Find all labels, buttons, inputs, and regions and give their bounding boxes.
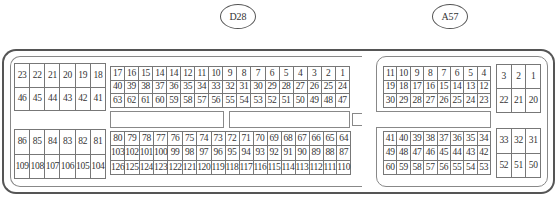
pin: 2 <box>511 65 526 89</box>
pin: 75 <box>182 132 196 146</box>
pin: 10 <box>209 67 223 81</box>
pin: 91 <box>281 146 295 160</box>
pin: 101 <box>139 146 153 160</box>
pin: 66 <box>309 132 323 146</box>
connector-label-d28: D28 <box>220 4 256 29</box>
pin: 2 <box>321 67 335 81</box>
pin: 12 <box>181 67 195 81</box>
pin: 44 <box>450 146 463 160</box>
pin: 125 <box>125 160 139 174</box>
pin: 65 <box>323 132 337 146</box>
pin: 70 <box>253 132 267 146</box>
pin: 95 <box>225 146 239 160</box>
pin: 78 <box>139 132 153 146</box>
pin: 49 <box>384 146 397 160</box>
pin: 3 <box>307 67 321 81</box>
pin: 110 <box>337 160 351 174</box>
pin: 41 <box>90 87 105 111</box>
pin: 35 <box>181 80 195 94</box>
pin: 43 <box>464 146 477 160</box>
pin: 113 <box>295 160 309 174</box>
pin: 42 <box>75 87 90 111</box>
pin: 22 <box>497 89 512 113</box>
pin: 54 <box>464 160 477 174</box>
pin: 40 <box>111 80 125 94</box>
pin: 92 <box>267 146 281 160</box>
pin: 40 <box>397 132 410 146</box>
pin: 31 <box>237 80 251 94</box>
pin: 81 <box>90 130 105 155</box>
pin: 100 <box>154 146 168 160</box>
pin: 31 <box>526 129 541 154</box>
pin: 93 <box>253 146 267 160</box>
pin: 87 <box>337 146 351 160</box>
pin: 59 <box>167 94 181 108</box>
pin: 85 <box>30 130 45 155</box>
pin: 47 <box>410 146 423 160</box>
pin: 121 <box>182 160 196 174</box>
pin: 3 <box>497 65 512 89</box>
connector-label-a57: A57 <box>432 4 468 29</box>
pin: 84 <box>45 130 60 155</box>
pin: 123 <box>154 160 168 174</box>
a57-block-top-right: 3 2 1 22 21 20 <box>496 64 541 113</box>
pin: 116 <box>253 160 267 174</box>
pin: 5 <box>464 67 477 81</box>
pin: 24 <box>335 80 349 94</box>
pin: 7 <box>437 67 450 81</box>
pin: 23 <box>477 94 490 108</box>
pin: 73 <box>211 132 225 146</box>
pin: 52 <box>265 94 279 108</box>
pin: 114 <box>281 160 295 174</box>
pin: 120 <box>197 160 211 174</box>
pin: 67 <box>295 132 309 146</box>
pin: 7 <box>251 67 265 81</box>
pin: 27 <box>293 80 307 94</box>
d28-block-bottom-left: 86 85 84 83 82 81 109 108 107 106 105 10… <box>14 129 106 179</box>
pin: 6 <box>450 67 463 81</box>
a57-block-bottom-right: 33 32 31 52 51 50 <box>496 128 541 178</box>
pin: 53 <box>477 160 490 174</box>
pin: 46 <box>15 87 30 111</box>
pin: 33 <box>497 129 512 154</box>
pin: 106 <box>60 154 75 179</box>
pin: 96 <box>211 146 225 160</box>
pin: 126 <box>111 160 125 174</box>
pin: 89 <box>309 146 323 160</box>
pin: 86 <box>15 130 30 155</box>
pin: 111 <box>323 160 337 174</box>
pin: 124 <box>139 160 153 174</box>
pin: 79 <box>125 132 139 146</box>
pin: 98 <box>182 146 196 160</box>
pin: 83 <box>60 130 75 155</box>
pin: 41 <box>384 132 397 146</box>
pin: 17 <box>111 67 125 81</box>
pin: 30 <box>251 80 265 94</box>
pin: 61 <box>139 94 153 108</box>
pin: 54 <box>237 94 251 108</box>
pin: 50 <box>526 153 541 178</box>
pin: 55 <box>223 94 237 108</box>
pin: 71 <box>239 132 253 146</box>
pin: 45 <box>437 146 450 160</box>
pin: 19 <box>75 64 90 88</box>
pin: 25 <box>450 94 463 108</box>
pin: 21 <box>511 89 526 113</box>
pin: 102 <box>125 146 139 160</box>
pin: 49 <box>307 94 321 108</box>
pin: 42 <box>477 146 490 160</box>
connector-label-a57-text: A57 <box>441 11 458 22</box>
a57-block-bottom-main: 41 40 39 38 37 36 35 34 49 48 47 46 45 4… <box>383 131 491 175</box>
pin: 108 <box>30 154 45 179</box>
pin: 9 <box>410 67 423 81</box>
pin: 46 <box>424 146 437 160</box>
pin: 11 <box>195 67 209 81</box>
pin: 6 <box>265 67 279 81</box>
pin: 109 <box>15 154 30 179</box>
pin: 80 <box>111 132 125 146</box>
pin: 24 <box>464 94 477 108</box>
pin: 37 <box>437 132 450 146</box>
pin: 60 <box>384 160 397 174</box>
pin: 119 <box>211 160 225 174</box>
pin: 15 <box>139 67 153 81</box>
